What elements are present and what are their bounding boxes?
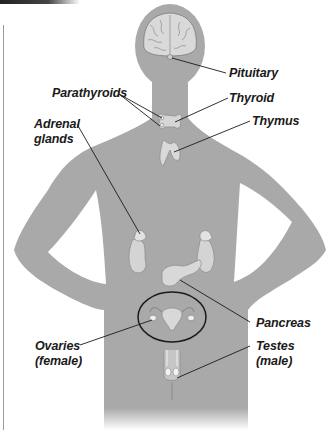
label-pancreas: Pancreas — [256, 316, 311, 331]
label-ovaries: Ovaries (female) — [35, 339, 82, 369]
label-pituitary: Pituitary — [229, 66, 278, 81]
pituitary-gland-icon — [168, 55, 173, 60]
label-parathyroids: Parathyroids — [52, 86, 127, 101]
thyroid-gland-icon — [158, 114, 181, 129]
label-adrenal-glands: Adrenal glands — [34, 117, 80, 147]
label-thymus: Thymus — [252, 114, 299, 129]
label-testes: Testes (male) — [256, 339, 295, 369]
label-thyroid: Thyroid — [229, 91, 274, 106]
